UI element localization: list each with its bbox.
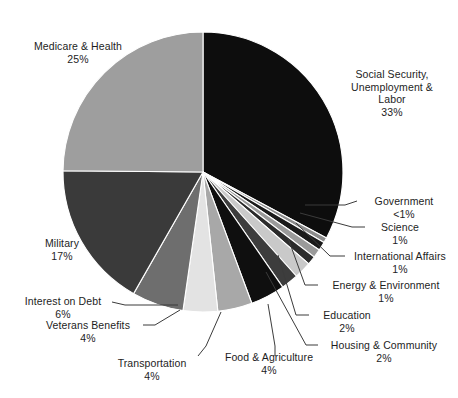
label-international-affairs-text: International Affairs [354, 250, 446, 262]
label-energy-environment-text: Energy & Environment [332, 279, 439, 291]
label-medicare-health-pct: 25% [8, 53, 148, 66]
label-transportation-text: Transportation [118, 357, 187, 369]
label-social-security: Social Security, Unemployment & Labor 33… [330, 68, 454, 118]
pie-slice-group [63, 32, 343, 312]
label-international-affairs-pct: 1% [344, 263, 456, 276]
label-medicare-health-text: Medicare & Health [34, 40, 122, 52]
label-government: Government <1% [356, 195, 452, 220]
label-transportation-pct: 4% [98, 370, 206, 383]
label-veterans-benefits-pct: 4% [32, 332, 144, 345]
label-science: Science 1% [364, 221, 436, 246]
label-social-security-line2: Unemployment & [330, 81, 454, 94]
label-military-pct: 17% [20, 250, 104, 263]
label-veterans-benefits-text: Veterans Benefits [46, 319, 130, 331]
label-government-pct: <1% [356, 208, 452, 221]
leader-line-food-agriculture [268, 304, 275, 356]
label-education-text: Education [323, 309, 371, 321]
label-interest-on-debt-pct: 6% [14, 308, 112, 321]
label-energy-environment-pct: 1% [317, 292, 455, 305]
label-interest-on-debt: Interest on Debt 6% [14, 295, 112, 320]
label-food-agriculture-text: Food & Agriculture [225, 351, 313, 363]
pie-chart: Medicare & Health 25% Social Security, U… [0, 0, 458, 398]
label-science-text: Science [381, 221, 419, 233]
label-social-security-line1: Social Security, [355, 68, 428, 80]
label-food-agriculture: Food & Agriculture 4% [207, 351, 331, 376]
label-international-affairs: International Affairs 1% [344, 250, 456, 275]
label-social-security-line3: Labor [330, 93, 454, 106]
label-military-text: Military [45, 237, 79, 249]
label-interest-on-debt-text: Interest on Debt [25, 295, 101, 307]
label-veterans-benefits: Veterans Benefits 4% [32, 319, 144, 344]
label-housing-community-text: Housing & Community [331, 339, 437, 351]
leader-line-transportation [198, 312, 221, 356]
leader-line-veterans-benefits [143, 310, 180, 325]
label-food-agriculture-pct: 4% [207, 364, 331, 377]
label-science-pct: 1% [364, 234, 436, 247]
label-housing-community: Housing & Community 2% [316, 339, 452, 364]
label-housing-community-pct: 2% [316, 352, 452, 365]
label-energy-environment: Energy & Environment 1% [317, 279, 455, 304]
label-education-pct: 2% [308, 322, 386, 335]
label-education: Education 2% [308, 309, 386, 334]
label-social-security-pct: 33% [330, 106, 454, 119]
label-government-text: Government [375, 195, 434, 207]
label-transportation: Transportation 4% [98, 357, 206, 382]
label-medicare-health: Medicare & Health 25% [8, 40, 148, 65]
label-military: Military 17% [20, 237, 104, 262]
